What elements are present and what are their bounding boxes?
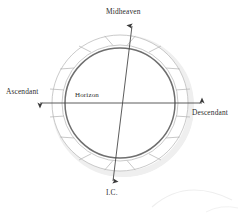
faint-arc-decoration xyxy=(152,190,238,212)
label-horizon: Horizon xyxy=(75,92,99,99)
label-midheaven: Midheaven xyxy=(106,8,141,15)
chart-wheel-diagram: Midheaven Ascendant Descendant I.C. Hori… xyxy=(0,0,239,215)
label-descendant: Descendant xyxy=(192,109,228,116)
label-ascendant: Ascendant xyxy=(6,88,39,95)
label-ic: I.C. xyxy=(106,189,118,196)
